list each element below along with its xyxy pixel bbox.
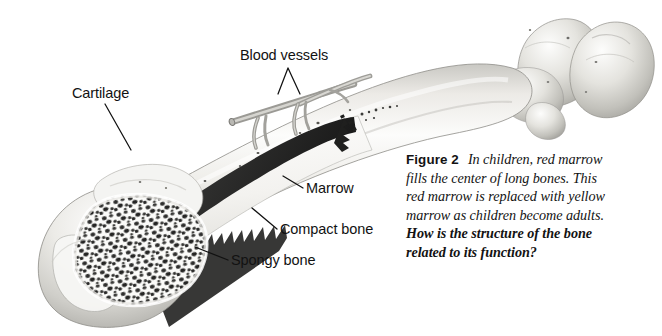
caption-figure-number: Figure 2	[406, 152, 459, 167]
caption-question: How is the structure of the bone related…	[406, 225, 592, 260]
label-blood-vessels: Blood vessels	[240, 48, 328, 64]
label-compact-bone: Compact bone	[280, 222, 373, 238]
figure-caption: Figure 2In children, red marrow fills th…	[406, 150, 618, 262]
bone-figure: Cartilage Blood vessels Marrow Compact b…	[0, 0, 662, 336]
label-cartilage: Cartilage	[72, 86, 129, 102]
label-spongy-bone: Spongy bone	[231, 253, 315, 269]
label-marrow: Marrow	[306, 181, 354, 197]
